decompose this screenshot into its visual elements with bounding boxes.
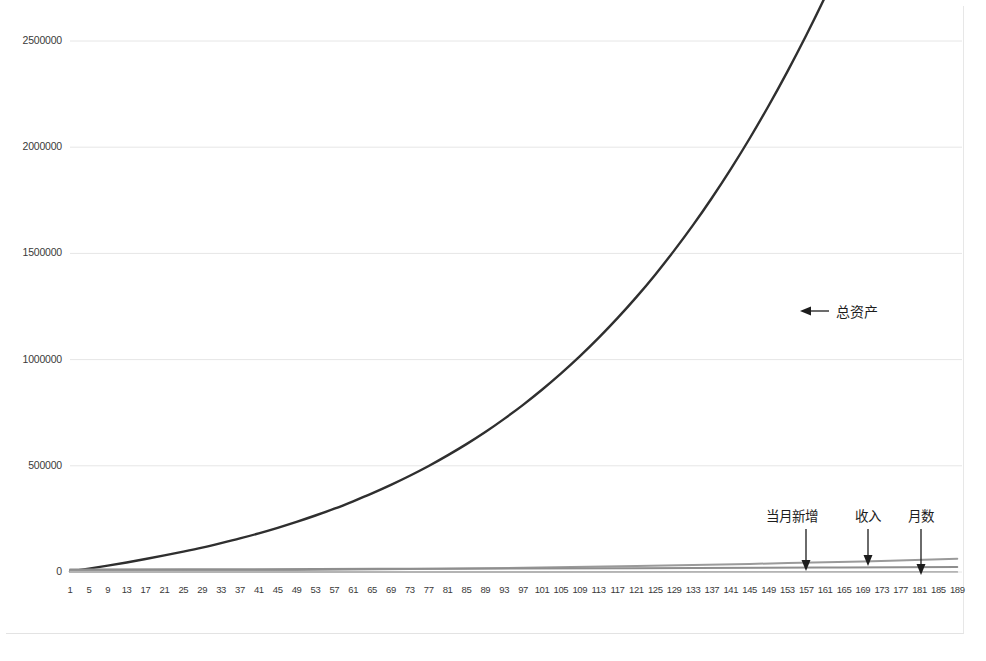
x-axis-tick-label: 117 bbox=[610, 584, 624, 595]
x-axis-tick-label: 61 bbox=[348, 584, 358, 595]
x-axis-tick-label: 13 bbox=[122, 584, 132, 595]
series-annotation-label: 当月新增 bbox=[766, 505, 818, 525]
annotation-arrows bbox=[800, 307, 926, 576]
plot-area: 05000001000000150000020000002500000 1591… bbox=[0, 0, 986, 661]
y-axis-tick-label: 1000000 bbox=[23, 353, 62, 365]
x-axis-tick-label: 125 bbox=[648, 584, 663, 595]
x-axis-tick-label: 49 bbox=[292, 584, 302, 595]
series-line bbox=[70, 0, 957, 571]
x-axis-tick-label: 177 bbox=[893, 584, 908, 595]
x-axis-tick-label: 169 bbox=[856, 584, 871, 595]
x-axis-tick-label: 121 bbox=[629, 584, 644, 595]
y-axis-tick-label: 1500000 bbox=[23, 246, 62, 258]
series-annotation-label: 收入 bbox=[855, 505, 881, 525]
x-axis-tick-label: 69 bbox=[386, 584, 396, 595]
x-axis-tick-label: 17 bbox=[141, 584, 151, 595]
x-axis-tick-label: 73 bbox=[405, 584, 415, 595]
x-axis-tick-label: 33 bbox=[216, 584, 226, 595]
x-axis-tick-label: 81 bbox=[443, 584, 453, 595]
x-axis-tick-label: 137 bbox=[705, 584, 720, 595]
x-axis-tick-label: 185 bbox=[931, 584, 946, 595]
x-axis-tick-label: 181 bbox=[912, 584, 927, 595]
x-axis-tick-label: 57 bbox=[329, 584, 339, 595]
x-axis-tick-label: 133 bbox=[686, 584, 701, 595]
chart-canvas: 05000001000000150000020000002500000 1591… bbox=[0, 0, 986, 661]
x-axis-tick-label: 37 bbox=[235, 584, 245, 595]
x-axis-tick-label: 157 bbox=[799, 584, 814, 595]
x-axis-tick-label: 77 bbox=[424, 584, 434, 595]
x-axis-tick-label: 189 bbox=[950, 584, 965, 595]
y-axis-tick-label: 500000 bbox=[28, 459, 62, 471]
x-axis-tick-label: 53 bbox=[311, 584, 321, 595]
x-axis-tick-label: 105 bbox=[554, 584, 569, 595]
series-annotation-label: 总资产 bbox=[836, 301, 878, 321]
x-axis-tick-label: 109 bbox=[572, 584, 587, 595]
x-axis-tick-label: 97 bbox=[518, 584, 528, 595]
x-axis-tick-label: 153 bbox=[780, 584, 795, 595]
x-axis-tick-label: 21 bbox=[160, 584, 170, 595]
x-axis-tick-label: 129 bbox=[667, 584, 682, 595]
x-axis-tick-label: 173 bbox=[874, 584, 889, 595]
gridlines bbox=[70, 41, 962, 572]
x-axis-tick-label: 149 bbox=[761, 584, 776, 595]
x-axis-tick-label: 101 bbox=[535, 584, 550, 595]
x-axis-tick-label: 165 bbox=[837, 584, 852, 595]
x-axis-tick-label: 25 bbox=[178, 584, 188, 595]
x-axis-tick-label: 89 bbox=[480, 584, 490, 595]
x-axis-tick-label: 1 bbox=[68, 584, 73, 595]
x-axis-tick-label: 41 bbox=[254, 584, 264, 595]
y-axis-tick-label: 0 bbox=[56, 565, 62, 577]
x-axis-tick-label: 85 bbox=[462, 584, 472, 595]
annotation-arrow-head bbox=[800, 307, 811, 316]
x-axis-tick-label: 141 bbox=[723, 584, 738, 595]
annotation-arrow-head bbox=[802, 560, 811, 571]
annotation-arrow-head bbox=[917, 564, 926, 575]
x-axis-tick-label: 9 bbox=[105, 584, 110, 595]
x-axis-tick-label: 145 bbox=[742, 584, 757, 595]
x-axis-tick-label: 5 bbox=[86, 584, 91, 595]
x-axis-tick-label: 65 bbox=[367, 584, 377, 595]
x-axis-tick-label: 45 bbox=[273, 584, 283, 595]
series-lines bbox=[70, 0, 957, 572]
y-axis-tick-label: 2500000 bbox=[23, 34, 62, 46]
series-annotation-label: 月数 bbox=[908, 505, 934, 525]
chart-svg bbox=[0, 0, 986, 661]
x-axis-tick-label: 113 bbox=[592, 584, 606, 595]
x-axis-tick-label: 161 bbox=[818, 584, 833, 595]
y-axis-tick-label: 2000000 bbox=[23, 140, 62, 152]
x-axis-tick-label: 29 bbox=[197, 584, 207, 595]
x-axis-tick-label: 93 bbox=[499, 584, 509, 595]
